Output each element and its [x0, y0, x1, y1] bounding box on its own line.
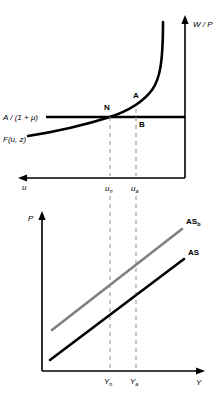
point-b-label: B: [139, 120, 145, 129]
y-axis: [42, 367, 205, 374]
economics-figure: W / P u A / (1 + μ) F(u, z) N A B un ua: [0, 0, 222, 400]
as-label: AS: [188, 248, 200, 257]
tick-un-sub: n: [109, 188, 112, 194]
y-axis-label: Y: [196, 378, 202, 387]
price-setting-label: A / (1 + μ): [2, 113, 38, 122]
point-a-label: A: [133, 91, 139, 100]
tick-un: un: [105, 184, 113, 194]
as-shifted-label: ASb: [186, 217, 201, 227]
as-shifted-label-sub: b: [197, 221, 201, 227]
tick-ya-sub: a: [135, 381, 138, 387]
as-label-base: AS: [188, 248, 200, 257]
tick-ya: Ya: [130, 377, 138, 387]
tick-ua: ua: [131, 184, 139, 194]
aggregate-supply-panel: P Y ASb AS Yn Ya: [28, 196, 205, 387]
wp-axis: [181, 15, 188, 178]
u-axis: [18, 174, 185, 181]
p-axis: [38, 211, 45, 371]
wage-setting-curve: [28, 22, 163, 136]
tick-yn: Yn: [104, 377, 112, 387]
as-shifted-label-base: AS: [186, 217, 198, 226]
as-curve: [50, 259, 184, 360]
tick-yn-sub: n: [109, 381, 112, 387]
labor-market-panel: W / P u A / (1 + μ) F(u, z) N A B un ua: [2, 15, 213, 194]
figure-canvas: W / P u A / (1 + μ) F(u, z) N A B un ua: [0, 0, 222, 400]
as-shifted-curve: [52, 229, 182, 330]
point-n-label: N: [104, 103, 110, 112]
wage-setting-label: F(u, z): [3, 135, 26, 144]
u-axis-label: u: [22, 183, 27, 192]
p-axis-label: P: [28, 214, 34, 223]
wp-axis-label: W / P: [193, 20, 213, 29]
tick-ua-sub: a: [135, 188, 138, 194]
